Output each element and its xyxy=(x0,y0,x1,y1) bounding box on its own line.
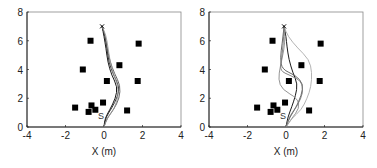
obstacle-marker xyxy=(116,62,122,68)
x-tick-label: -2 xyxy=(243,130,252,141)
obstacle-marker xyxy=(80,67,86,73)
y-tick-label: 4 xyxy=(199,65,205,76)
obstacle-marker xyxy=(317,78,323,84)
obstacle-marker xyxy=(298,62,304,68)
obstacle-marker xyxy=(254,105,260,111)
obstacle-marker xyxy=(306,107,312,113)
x-tick-label: 0 xyxy=(101,130,107,141)
x-tick-label: 4 xyxy=(360,130,366,141)
chart-panel-2: -4-202402468X (m)S xyxy=(199,7,366,157)
y-tick-label: 2 xyxy=(199,93,205,104)
y-tick-label: 6 xyxy=(17,36,23,47)
y-tick-label: 2 xyxy=(17,93,23,104)
y-tick-label: 0 xyxy=(17,122,23,133)
x-tick-label: -4 xyxy=(23,130,32,141)
x-tick-label: 2 xyxy=(322,130,328,141)
obstacle-marker xyxy=(104,78,110,84)
x-tick-label: -2 xyxy=(61,130,70,141)
obstacle-marker xyxy=(135,78,141,84)
start-label: S xyxy=(280,111,286,121)
obstacle-marker xyxy=(100,100,106,106)
chart-panel-1: -4-202402468X (m)S xyxy=(17,7,184,157)
obstacle-marker xyxy=(286,78,292,84)
x-tick-label: 2 xyxy=(140,130,146,141)
obstacle-marker xyxy=(262,67,268,73)
y-tick-label: 0 xyxy=(199,122,205,133)
obstacle-marker xyxy=(270,38,276,44)
obstacle-marker xyxy=(88,38,94,44)
x-tick-label: -4 xyxy=(205,130,214,141)
y-tick-label: 6 xyxy=(199,36,205,47)
x-axis-label: X (m) xyxy=(274,146,298,157)
x-axis-label: X (m) xyxy=(92,146,116,157)
start-label: S xyxy=(98,111,104,121)
obstacle-marker xyxy=(136,41,142,47)
y-tick-label: 8 xyxy=(199,7,205,18)
y-tick-label: 8 xyxy=(17,7,23,18)
obstacle-marker xyxy=(318,41,324,47)
obstacle-marker xyxy=(86,109,92,115)
obstacle-marker xyxy=(268,109,274,115)
x-tick-label: 4 xyxy=(178,130,184,141)
trajectory-charts: -4-202402468X (m)S-4-202402468X (m)S xyxy=(0,0,377,168)
obstacle-marker xyxy=(72,105,78,111)
y-tick-label: 4 xyxy=(17,65,23,76)
obstacle-marker xyxy=(282,100,288,106)
obstacle-marker xyxy=(124,107,130,113)
x-tick-label: 0 xyxy=(283,130,289,141)
